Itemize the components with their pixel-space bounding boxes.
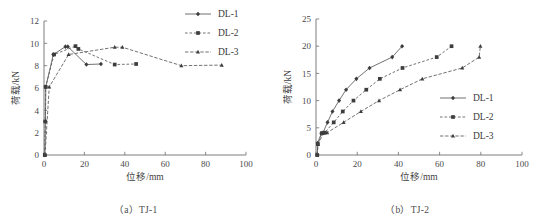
data-point-marker bbox=[477, 55, 481, 59]
data-point-marker bbox=[47, 85, 51, 89]
y-axis-tick-label: 8 bbox=[35, 61, 40, 71]
y-axis-tick-label: 20 bbox=[302, 41, 312, 51]
legend-marker-dl-2 bbox=[451, 115, 455, 119]
x-axis-tick-label: 60 bbox=[435, 159, 445, 169]
data-point-marker bbox=[340, 110, 344, 114]
data-point-marker bbox=[134, 62, 138, 66]
x-axis-tick-label: 40 bbox=[393, 159, 403, 169]
legend-label-dl-1: DL-1 bbox=[473, 93, 494, 103]
data-point-marker bbox=[351, 99, 355, 103]
legend-marker-dl-1 bbox=[450, 96, 454, 101]
y-axis-tick-label: 6 bbox=[35, 83, 40, 93]
data-point-marker bbox=[113, 63, 117, 67]
x-axis-tick-label: 40 bbox=[120, 159, 130, 169]
data-point-marker bbox=[358, 109, 362, 113]
data-point-marker bbox=[44, 85, 48, 89]
x-axis-tick-label: 20 bbox=[80, 159, 90, 169]
chart-axes bbox=[44, 21, 246, 155]
series-polyline bbox=[45, 47, 101, 155]
legend-marker-dl-1 bbox=[196, 12, 200, 17]
y-axis-tick-label: 0 bbox=[306, 150, 311, 160]
y-axis-tick-label: 10 bbox=[30, 39, 40, 49]
y-axis-tick-label: 5 bbox=[306, 123, 311, 133]
series-polyline bbox=[317, 46, 480, 155]
data-point-marker bbox=[449, 44, 453, 48]
data-series bbox=[43, 44, 138, 157]
legend-marker-dl-2 bbox=[196, 31, 200, 35]
y-axis-tick-label: 0 bbox=[35, 150, 40, 160]
chart-legend: DL-1DL-2DL-3 bbox=[185, 9, 239, 57]
x-axis-tick-label: 20 bbox=[352, 159, 362, 169]
y-axis-tick-label: 12 bbox=[30, 16, 39, 26]
x-axis-tick-label: 60 bbox=[161, 159, 171, 169]
x-axis-tick-label: 100 bbox=[239, 159, 253, 169]
y-axis-tick-label: 25 bbox=[302, 14, 312, 24]
series-polyline bbox=[45, 47, 222, 155]
data-point-marker bbox=[434, 55, 438, 59]
x-axis-tick-label: 80 bbox=[201, 159, 211, 169]
chart-caption-b: （b）TJ-2 bbox=[272, 202, 543, 216]
y-axis-tick-label: 4 bbox=[35, 106, 40, 116]
chart-caption-a: （a）TJ-1 bbox=[0, 202, 272, 216]
chart-panel-b: 0510152025020406080100位移/mm荷载/kNDL-1DL-2… bbox=[272, 0, 543, 219]
x-axis-tick-label: 80 bbox=[476, 159, 486, 169]
data-point-marker bbox=[478, 44, 482, 48]
chart-svg-b: 0510152025020406080100位移/mm荷载/kNDL-1DL-2… bbox=[272, 0, 543, 190]
chart-svg-a: 024681012020406080100位移/mm荷载/kNDL-1DL-2D… bbox=[0, 0, 272, 190]
figure-container: 024681012020406080100位移/mm荷载/kNDL-1DL-2D… bbox=[0, 0, 543, 219]
chart-plot-a: 024681012020406080100位移/mm荷载/kNDL-1DL-2D… bbox=[0, 0, 272, 190]
data-point-marker bbox=[76, 47, 80, 51]
data-series bbox=[315, 44, 404, 157]
data-point-marker bbox=[43, 120, 47, 124]
legend-label-dl-3: DL-3 bbox=[473, 131, 494, 141]
x-axis-title: 位移/mm bbox=[400, 171, 438, 182]
data-point-marker bbox=[99, 62, 103, 67]
chart-plot-b: 0510152025020406080100位移/mm荷载/kNDL-1DL-2… bbox=[272, 0, 543, 190]
data-point-marker bbox=[52, 53, 56, 57]
legend-label-dl-3: DL-3 bbox=[218, 47, 239, 57]
chart-legend: DL-1DL-2DL-3 bbox=[440, 93, 494, 141]
legend-label-dl-2: DL-2 bbox=[473, 112, 494, 122]
data-point-marker bbox=[331, 121, 335, 125]
y-axis-tick-label: 2 bbox=[35, 128, 40, 138]
y-axis-tick-label: 10 bbox=[302, 96, 312, 106]
data-point-marker bbox=[420, 77, 424, 81]
data-series bbox=[43, 44, 103, 157]
data-point-marker bbox=[325, 120, 329, 125]
data-point-marker bbox=[364, 88, 368, 92]
x-axis-title: 位移/mm bbox=[126, 171, 164, 182]
legend-label-dl-1: DL-1 bbox=[218, 9, 239, 19]
data-series bbox=[43, 45, 224, 156]
data-point-marker bbox=[400, 66, 404, 70]
chart-panel-a: 024681012020406080100位移/mm荷载/kNDL-1DL-2D… bbox=[0, 0, 272, 219]
x-axis-tick-label: 0 bbox=[313, 159, 318, 169]
y-axis-title: 荷载/kN bbox=[10, 71, 21, 105]
legend-label-dl-2: DL-2 bbox=[218, 28, 239, 38]
x-axis-tick-label: 0 bbox=[42, 159, 47, 169]
data-point-marker bbox=[378, 77, 382, 81]
series-polyline bbox=[45, 46, 136, 155]
data-point-marker bbox=[460, 66, 464, 70]
y-axis-title: 荷载/kN bbox=[282, 70, 293, 104]
data-point-marker bbox=[341, 120, 345, 124]
y-axis-tick-label: 15 bbox=[302, 69, 312, 79]
x-axis-tick-label: 100 bbox=[515, 159, 529, 169]
series-polyline bbox=[317, 46, 402, 155]
